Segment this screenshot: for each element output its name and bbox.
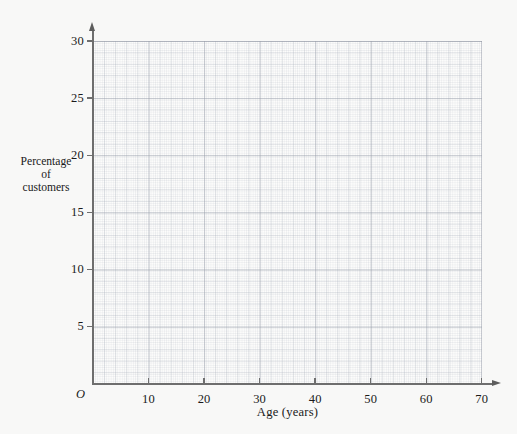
y-axis-tick-label-text: 10 (55, 263, 84, 276)
x-axis-tick (314, 378, 315, 384)
x-axis-tick-label-text: 10 (142, 392, 155, 406)
x-axis-title: Age (years) (93, 405, 482, 420)
origin-label: O (76, 387, 85, 402)
y-axis-tick (87, 97, 93, 98)
x-axis-tick-label-text: 60 (420, 392, 433, 406)
x-axis-tick (203, 378, 204, 384)
x-axis-arrowhead-icon (492, 380, 501, 386)
y-axis-title-line-2: of (8, 168, 84, 181)
x-axis-tick-label-text: 70 (475, 392, 488, 406)
x-axis-tick (259, 378, 260, 384)
grid-right-edge (481, 41, 482, 384)
y-axis-tick-label-text: 25 (55, 92, 84, 105)
x-axis-tick (92, 378, 93, 384)
y-axis-tick-label-text: 5 (55, 320, 84, 333)
x-axis-line (92, 383, 493, 385)
y-axis-title-line-1: Percentage (8, 155, 84, 168)
x-axis-tick-label-text: 30 (253, 392, 266, 406)
x-axis-tick (426, 378, 427, 384)
y-axis-tick (87, 40, 93, 41)
y-axis-tick (87, 326, 93, 327)
y-axis-title-line-3: customers (8, 181, 84, 194)
grid-top-edge (93, 41, 482, 42)
y-axis-tick (87, 269, 93, 270)
x-axis-tick (481, 378, 482, 384)
x-axis-tick-label-text: 50 (364, 392, 377, 406)
chart-canvas: 51015202530 10203040506070 O Percentage … (0, 0, 517, 434)
y-axis-title: Percentage of customers (8, 155, 84, 195)
y-axis-arrowhead-icon (89, 22, 95, 31)
x-axis-tick (370, 378, 371, 384)
y-axis-tick-label-text: 15 (55, 206, 84, 219)
y-axis-tick (87, 212, 93, 213)
y-axis-tick (87, 155, 93, 156)
x-axis-tick (148, 378, 149, 384)
y-axis-line (92, 31, 94, 385)
y-axis-tick-label-text: 30 (55, 35, 84, 48)
x-axis-tick-label-text: 40 (309, 392, 322, 406)
x-axis-tick-label-text: 20 (198, 392, 211, 406)
graph-paper-grid (93, 41, 482, 384)
